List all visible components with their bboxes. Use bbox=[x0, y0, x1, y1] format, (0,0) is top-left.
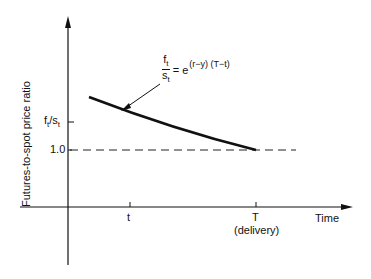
x-tick-sublabel-delivery: (delivery) bbox=[234, 224, 279, 236]
x-axis-arrow-icon bbox=[341, 204, 353, 210]
y-axis-arrow-icon bbox=[65, 16, 71, 28]
diagram-canvas bbox=[0, 0, 371, 279]
equation: ft st = e (r−y) (T−t) bbox=[162, 54, 230, 85]
y-axis-label: Futures-to-spot price ratio bbox=[20, 81, 32, 207]
y-tick-label-one: 1.0 bbox=[50, 143, 65, 155]
x-axis-label: Time bbox=[315, 212, 339, 224]
futures-spot-ratio-curve bbox=[89, 97, 256, 150]
x-tick-label-T: T bbox=[252, 211, 259, 223]
x-tick-label-t: t bbox=[127, 211, 130, 223]
y-tick-label-ft-st: ft/st bbox=[44, 114, 60, 129]
